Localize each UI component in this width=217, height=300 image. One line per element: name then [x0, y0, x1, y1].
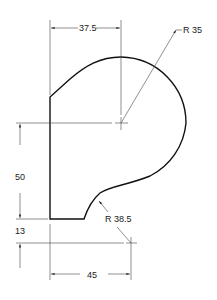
- leader-r385-arrow: [99, 201, 108, 212]
- engineering-drawing: 37.5 R 35 50 13 45 R 38.5: [0, 0, 217, 300]
- dimension-bottom-offset: 13: [15, 226, 25, 236]
- leader-r385: [117, 227, 131, 243]
- part-outline: [50, 57, 186, 219]
- dimension-height: 50: [15, 172, 25, 182]
- dimension-lower-radius: R 38.5: [105, 214, 132, 224]
- dimension-bottom-width: 45: [87, 270, 97, 280]
- dimension-top-width: 37.5: [79, 23, 97, 33]
- dimension-upper-radius: R 35: [183, 25, 202, 35]
